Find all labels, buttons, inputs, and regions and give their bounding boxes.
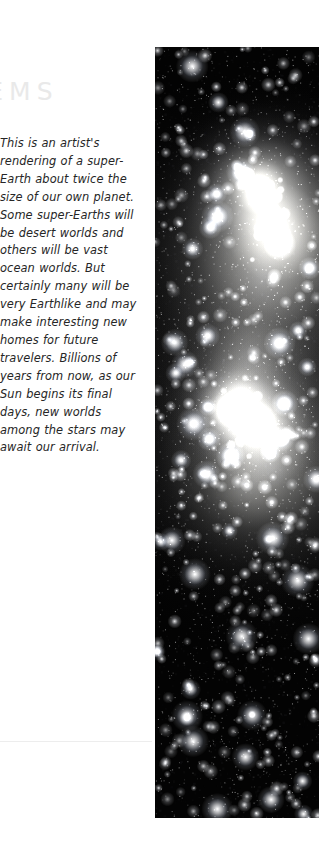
starfield-canvas	[155, 47, 319, 818]
column-divider	[0, 741, 152, 742]
starfield-nebula-photo	[155, 47, 319, 818]
caption-paragraph: This is an artist's rendering of a super…	[0, 135, 141, 457]
page-heading: TEMS	[0, 79, 59, 104]
